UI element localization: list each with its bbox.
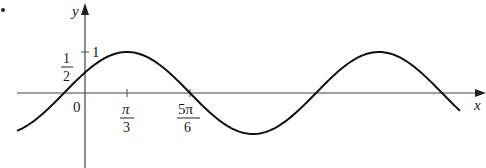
y-tick-label-1: 1 xyxy=(92,44,100,60)
x-axis-label: x xyxy=(473,97,481,113)
x-axis-arrow-icon xyxy=(475,89,486,97)
pi3-numerator: π xyxy=(122,101,130,117)
half-numerator: 1 xyxy=(63,51,70,66)
sine-graph: y x 0 1 1 2 π 3 5π 6 xyxy=(0,0,486,168)
5pi6-numerator: 5π xyxy=(178,101,194,117)
origin-label: 0 xyxy=(73,99,81,115)
y-axis-label: y xyxy=(70,3,79,19)
pi3-denominator: 3 xyxy=(123,120,130,135)
bullet-dot xyxy=(1,8,5,12)
5pi6-denominator: 6 xyxy=(184,120,191,135)
y-axis-arrow-icon xyxy=(81,3,89,15)
half-denominator: 2 xyxy=(63,69,70,84)
